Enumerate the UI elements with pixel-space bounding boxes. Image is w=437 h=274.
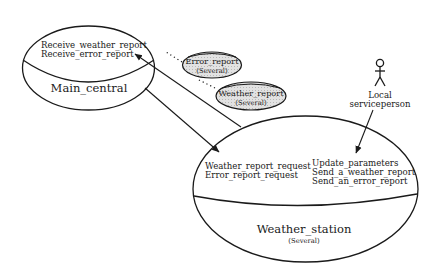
object-weather-station[interactable]: Weather_report_request Error_report_requ… xyxy=(193,116,418,262)
weather-report-name: Weather_report xyxy=(218,88,284,98)
actor-local-serviceperson[interactable]: Local serviceperson xyxy=(350,59,411,109)
weather-station-multiplicity: (Several) xyxy=(288,237,320,245)
actor-label-line2: serviceperson xyxy=(350,99,411,109)
main-central-name: Main_central xyxy=(51,81,128,95)
error-report-multiplicity: (Several) xyxy=(196,67,228,75)
object-main-central[interactable]: Receive_weather_report Receive_error_rep… xyxy=(23,26,155,110)
dotted-link-weather-report xyxy=(197,79,215,88)
message-error-report[interactable]: Error_report (Several) xyxy=(183,52,242,78)
error-report-name: Error_report xyxy=(186,56,240,66)
stick-figure-icon xyxy=(375,59,385,86)
diagram-canvas: Receive_weather_report Receive_error_rep… xyxy=(0,0,437,274)
weather-station-name: Weather_station xyxy=(257,222,352,236)
message-weather-report[interactable]: Weather_report (Several) xyxy=(216,82,286,110)
dotted-link-error-report xyxy=(166,52,182,62)
op-send-an-error-report: Send_an_error_report xyxy=(312,176,408,187)
op-error-report-request: Error_report_request xyxy=(205,170,299,181)
op-receive-error-report: Receive_error_report xyxy=(41,49,134,60)
weather-report-multiplicity: (Several) xyxy=(235,99,267,107)
arrow-main-central-to-ws xyxy=(145,88,219,152)
